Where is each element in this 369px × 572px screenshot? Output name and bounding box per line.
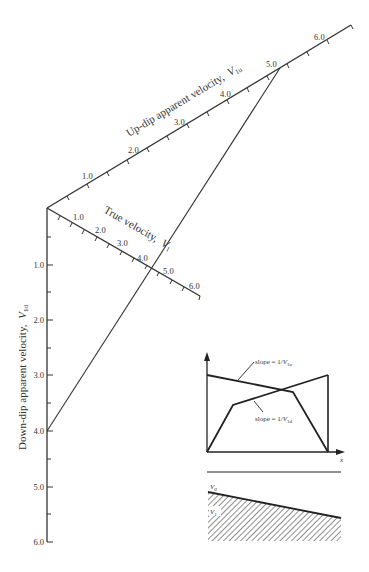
updip-tick-1: 1.0 xyxy=(82,171,93,181)
updip-axis: 1.0 2.0 3.0 4.0 5.0 6.0 Up-dip apparent … xyxy=(47,25,353,208)
true-tick-5: 5.0 xyxy=(163,266,174,276)
updip-tick-4: 4.0 xyxy=(220,89,231,99)
layer-v0-label: V0 xyxy=(210,483,217,492)
true-axis-title: True velocity, V1 xyxy=(101,203,175,254)
downdip-tick-2: 2.0 xyxy=(33,315,44,325)
slope-updip-label: slope = 1/V1u xyxy=(255,358,292,367)
velocity-nomogram: 1.0 2.0 3.0 4.0 5.0 6.0 Up-dip apparent … xyxy=(0,0,369,572)
construction-line xyxy=(47,68,280,431)
inset-layer-section: V0 V1 xyxy=(207,472,341,541)
true-tick-1: 1.0 xyxy=(73,212,84,222)
inset-traveltime-plot: x slope = 1/V1u slope = 1/V1d xyxy=(204,352,345,464)
downdip-tick-1: 1.0 xyxy=(33,260,44,270)
updip-tick-5: 5.0 xyxy=(266,59,277,69)
downdip-axis: 1.0 2.0 3.0 4.0 5.0 6.0 Down-dip apparen… xyxy=(16,208,53,547)
x-arrow-icon xyxy=(336,449,345,455)
downdip-tick-5: 5.0 xyxy=(33,482,44,492)
y-arrow-icon xyxy=(204,352,210,361)
downdip-tick-4: 4.0 xyxy=(33,426,44,436)
x-axis-label: x xyxy=(339,456,344,464)
updip-tick-6: 6.0 xyxy=(314,32,325,42)
true-tick-6: 6.0 xyxy=(189,281,200,291)
updip-tick-2: 2.0 xyxy=(128,145,139,155)
downdip-tick-3: 3.0 xyxy=(33,370,44,380)
updip-tick-3: 3.0 xyxy=(174,117,185,127)
true-tick-2: 2.0 xyxy=(95,225,106,235)
true-velocity-axis: 1.0 2.0 3.0 4.0 5.0 6.0 True velocity, V… xyxy=(47,203,200,300)
slope-downdip-label: slope = 1/V1d xyxy=(255,415,292,424)
downdip-tick-6: 6.0 xyxy=(33,537,44,547)
downdip-axis-title: Down-dip apparent velocity, V1d xyxy=(16,305,30,450)
true-tick-4: 4.0 xyxy=(137,253,148,263)
true-tick-3: 3.0 xyxy=(117,238,128,248)
